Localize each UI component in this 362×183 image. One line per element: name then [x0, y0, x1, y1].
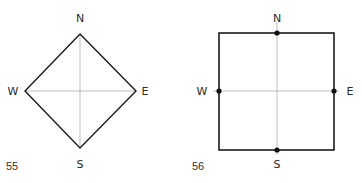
- figure-56-label-east: E: [347, 85, 354, 98]
- figure-55-number: 55: [6, 160, 18, 172]
- figure-56-west-dot: [216, 88, 221, 93]
- diagram-canvas: N W E S 55 N W E S 56: [0, 0, 362, 183]
- figure-56-east-dot: [331, 88, 336, 93]
- figure-56-south-dot: [274, 147, 279, 152]
- figure-56-outline: [219, 33, 334, 150]
- figure-55-label-west: W: [8, 85, 19, 98]
- figure-56-north-dot: [274, 30, 279, 35]
- figure-56-number: 56: [192, 160, 204, 172]
- figure-56-label-south: S: [274, 158, 281, 171]
- figure-55-label-east: E: [142, 85, 149, 98]
- figure-56-label-west: W: [197, 85, 208, 98]
- figure-55-diamond: N W E S 55: [6, 12, 149, 172]
- figure-55-label-north: N: [76, 12, 84, 25]
- figure-56-label-north: N: [273, 12, 281, 25]
- figure-55-label-south: S: [77, 158, 84, 171]
- figure-56-square: N W E S 56: [192, 12, 354, 172]
